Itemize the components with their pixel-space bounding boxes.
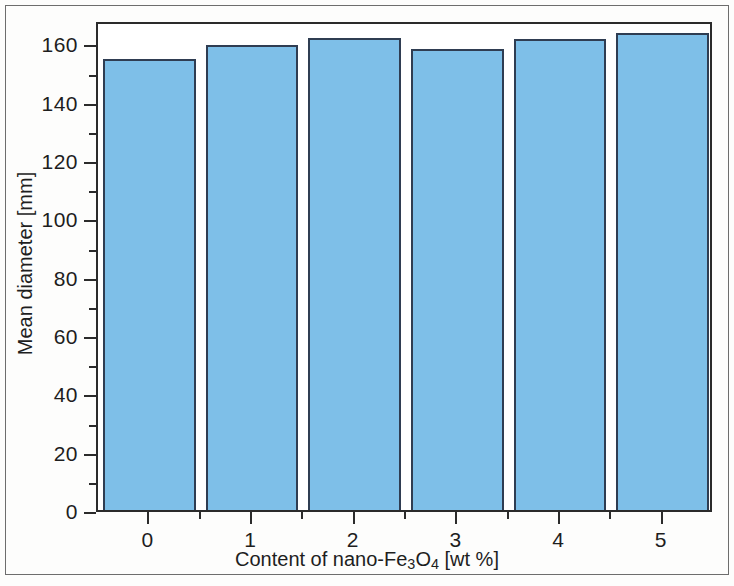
x-axis-title-sub2: 4 xyxy=(431,556,439,572)
y-tick-major xyxy=(84,395,96,397)
y-tick-minor xyxy=(89,250,96,252)
y-tick-minor xyxy=(89,191,96,193)
x-tick-major xyxy=(250,512,252,524)
x-tick-minor xyxy=(404,512,406,519)
bar xyxy=(308,38,400,511)
y-tick-label: 140 xyxy=(41,92,78,116)
y-tick-major xyxy=(84,454,96,456)
y-tick-label: 160 xyxy=(41,33,78,57)
y-tick-label: 100 xyxy=(41,208,78,232)
x-tick-major xyxy=(661,512,663,524)
y-tick-minor xyxy=(89,75,96,77)
y-tick-major xyxy=(84,220,96,222)
y-tick-major xyxy=(84,279,96,281)
y-tick-major xyxy=(84,162,96,164)
y-tick-label: 40 xyxy=(54,383,78,407)
y-tick-minor xyxy=(89,425,96,427)
x-axis-title-mid: O xyxy=(415,548,431,570)
x-tick-minor xyxy=(199,512,201,519)
chart-figure: 020406080100120140160 012345 Content of … xyxy=(0,0,734,586)
y-tick-major xyxy=(84,45,96,47)
bar xyxy=(616,33,708,510)
x-tick-major xyxy=(558,512,560,524)
y-axis-title: Mean diameter [mm] xyxy=(14,134,37,394)
y-tick-minor xyxy=(89,483,96,485)
y-tick-minor xyxy=(89,308,96,310)
y-tick-minor xyxy=(89,366,96,368)
y-tick-label: 60 xyxy=(54,325,78,349)
y-tick-major xyxy=(84,337,96,339)
x-tick-minor xyxy=(609,512,611,519)
bar xyxy=(206,45,298,510)
y-tick-label: 20 xyxy=(54,442,78,466)
y-tick-major xyxy=(84,104,96,106)
y-tick-label: 80 xyxy=(54,267,78,291)
x-tick-major xyxy=(455,512,457,524)
bar xyxy=(514,39,606,510)
plot-area xyxy=(96,22,712,512)
y-tick-label: 120 xyxy=(41,150,78,174)
x-tick-minor xyxy=(301,512,303,519)
x-tick-major xyxy=(353,512,355,524)
bar-series xyxy=(98,24,710,510)
x-axis-title-pre: Content of nano-Fe xyxy=(235,548,407,570)
y-tick-minor xyxy=(89,133,96,135)
x-tick-major xyxy=(147,512,149,524)
x-axis-title-post: [wt %] xyxy=(439,548,499,570)
bar xyxy=(411,49,503,510)
x-tick-minor xyxy=(507,512,509,519)
bar xyxy=(103,59,195,510)
x-axis-title: Content of nano-Fe3O4 [wt %] xyxy=(0,548,734,572)
